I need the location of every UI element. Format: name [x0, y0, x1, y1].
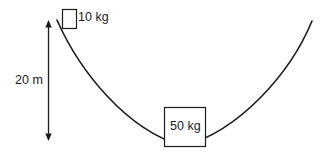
diagram-canvas — [0, 0, 326, 158]
height-dimension-label: 20 m — [15, 74, 43, 87]
large-block-label: 50 kg — [170, 120, 201, 133]
arrow-down-icon — [45, 134, 51, 142]
arrow-up-icon — [45, 20, 51, 28]
physics-diagram: 20 m 10 kg 50 kg — [0, 0, 326, 158]
small-block-shape — [63, 10, 77, 29]
small-block-label: 10 kg — [78, 11, 109, 24]
